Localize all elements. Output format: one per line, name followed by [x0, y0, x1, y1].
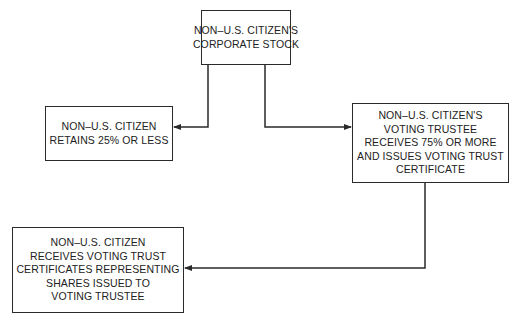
node-text-line: RECEIVES 75% OR MORE — [364, 136, 496, 150]
node-text-line: CERTIFICATE — [396, 163, 465, 177]
node-text-line: SHARES ISSUED TO — [46, 277, 150, 291]
arrow-trustee-to-receives — [185, 183, 425, 268]
node-voting-trustee: NON–U.S. CITIZEN'S VOTING TRUSTEE RECEIV… — [352, 103, 509, 183]
arrow-stock-to-trustee — [265, 65, 351, 127]
node-text-line: NON–U.S. CITIZEN — [51, 236, 146, 250]
node-text-line: VOTING TRUSTEE — [384, 123, 477, 137]
node-text-line: CERTIFICATES REPRESENTING — [16, 263, 179, 277]
node-citizen-retains: NON–U.S. CITIZEN RETAINS 25% OR LESS — [45, 106, 173, 161]
node-text-line: NON–U.S. CITIZEN'S — [378, 109, 482, 123]
node-text-line: NON–U.S. CITIZEN'S — [194, 24, 298, 38]
node-text-line: AND ISSUES VOTING TRUST — [357, 150, 504, 164]
arrow-stock-to-retains — [174, 65, 208, 127]
node-text-line: RECEIVES VOTING TRUST — [30, 250, 166, 264]
node-text-line: RETAINS 25% OR LESS — [50, 134, 169, 148]
node-text-line: VOTING TRUSTEE — [51, 290, 144, 304]
node-citizen-receives-certificates: NON–U.S. CITIZEN RECEIVES VOTING TRUST C… — [12, 227, 184, 313]
node-corporate-stock: NON–U.S. CITIZEN'S CORPORATE STOCK — [201, 10, 291, 65]
flowchart-canvas: NON–U.S. CITIZEN'S CORPORATE STOCK NON–U… — [0, 0, 519, 322]
node-text-line: CORPORATE STOCK — [193, 38, 299, 52]
node-text-line: NON–U.S. CITIZEN — [62, 120, 157, 134]
